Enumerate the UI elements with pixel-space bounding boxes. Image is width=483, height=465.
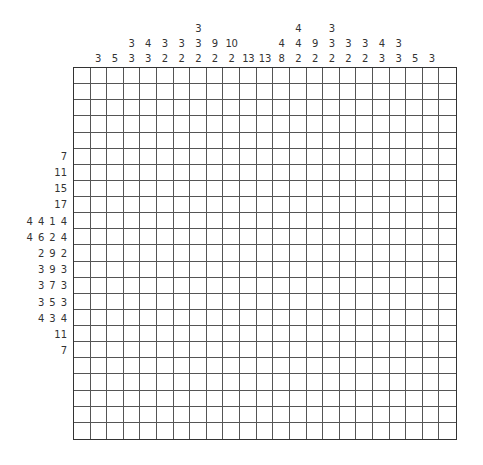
grid-cell-r17-c10[interactable]	[223, 326, 240, 342]
grid-cell-r16-c23[interactable]	[439, 310, 456, 326]
grid-cell-r3-c7[interactable]	[174, 100, 191, 116]
grid-cell-r23-c3[interactable]	[107, 423, 124, 439]
grid-cell-r1-c13[interactable]	[273, 68, 290, 84]
grid-cell-r21-c23[interactable]	[439, 391, 456, 407]
grid-cell-r4-c10[interactable]	[223, 116, 240, 132]
grid-cell-r12-c12[interactable]	[257, 245, 274, 261]
grid-cell-r6-c3[interactable]	[107, 149, 124, 165]
grid-cell-r22-c20[interactable]	[390, 407, 407, 423]
grid-cell-r15-c11[interactable]	[240, 294, 257, 310]
grid-cell-r20-c2[interactable]	[91, 374, 108, 390]
grid-cell-r14-c3[interactable]	[107, 278, 124, 294]
grid-cell-r9-c13[interactable]	[273, 197, 290, 213]
grid-cell-r11-c6[interactable]	[157, 229, 174, 245]
grid-cell-r17-c12[interactable]	[257, 326, 274, 342]
grid-cell-r11-c8[interactable]	[190, 229, 207, 245]
grid-cell-r4-c1[interactable]	[74, 116, 91, 132]
grid-cell-r18-c1[interactable]	[74, 342, 91, 358]
grid-cell-r10-c16[interactable]	[323, 213, 340, 229]
grid-cell-r21-c14[interactable]	[290, 391, 307, 407]
grid-cell-r20-c1[interactable]	[74, 374, 91, 390]
grid-cell-r18-c17[interactable]	[340, 342, 357, 358]
grid-cell-r19-c19[interactable]	[373, 358, 390, 374]
grid-cell-r2-c22[interactable]	[423, 84, 440, 100]
grid-cell-r17-c8[interactable]	[190, 326, 207, 342]
grid-cell-r12-c8[interactable]	[190, 245, 207, 261]
grid-cell-r8-c1[interactable]	[74, 181, 91, 197]
grid-cell-r17-c6[interactable]	[157, 326, 174, 342]
grid-cell-r8-c6[interactable]	[157, 181, 174, 197]
grid-cell-r8-c23[interactable]	[439, 181, 456, 197]
grid-cell-r16-c4[interactable]	[124, 310, 141, 326]
grid-cell-r2-c23[interactable]	[439, 84, 456, 100]
grid-cell-r1-c3[interactable]	[107, 68, 124, 84]
grid-cell-r7-c10[interactable]	[223, 165, 240, 181]
grid-cell-r17-c23[interactable]	[439, 326, 456, 342]
grid-cell-r13-c13[interactable]	[273, 262, 290, 278]
grid-cell-r21-c13[interactable]	[273, 391, 290, 407]
grid-cell-r8-c10[interactable]	[223, 181, 240, 197]
grid-cell-r3-c19[interactable]	[373, 100, 390, 116]
grid-cell-r7-c3[interactable]	[107, 165, 124, 181]
grid-cell-r10-c4[interactable]	[124, 213, 141, 229]
grid-cell-r15-c7[interactable]	[174, 294, 191, 310]
grid-cell-r11-c16[interactable]	[323, 229, 340, 245]
grid-cell-r5-c7[interactable]	[174, 133, 191, 149]
grid-cell-r22-c23[interactable]	[439, 407, 456, 423]
grid-cell-r7-c23[interactable]	[439, 165, 456, 181]
grid-cell-r19-c13[interactable]	[273, 358, 290, 374]
grid-cell-r20-c21[interactable]	[406, 374, 423, 390]
grid-cell-r20-c8[interactable]	[190, 374, 207, 390]
grid-cell-r20-c23[interactable]	[439, 374, 456, 390]
grid-cell-r4-c20[interactable]	[390, 116, 407, 132]
grid-cell-r16-c9[interactable]	[207, 310, 224, 326]
grid-cell-r7-c2[interactable]	[91, 165, 108, 181]
grid-cell-r16-c8[interactable]	[190, 310, 207, 326]
grid-cell-r1-c20[interactable]	[390, 68, 407, 84]
grid-cell-r13-c15[interactable]	[307, 262, 324, 278]
grid-cell-r3-c20[interactable]	[390, 100, 407, 116]
grid-cell-r13-c8[interactable]	[190, 262, 207, 278]
grid-cell-r1-c10[interactable]	[223, 68, 240, 84]
grid-cell-r14-c7[interactable]	[174, 278, 191, 294]
grid-cell-r15-c8[interactable]	[190, 294, 207, 310]
grid-cell-r17-c2[interactable]	[91, 326, 108, 342]
grid-cell-r11-c19[interactable]	[373, 229, 390, 245]
grid-cell-r16-c11[interactable]	[240, 310, 257, 326]
grid-cell-r20-c19[interactable]	[373, 374, 390, 390]
grid-cell-r5-c3[interactable]	[107, 133, 124, 149]
grid-cell-r15-c22[interactable]	[423, 294, 440, 310]
grid-cell-r6-c10[interactable]	[223, 149, 240, 165]
grid-cell-r22-c22[interactable]	[423, 407, 440, 423]
grid-cell-r13-c9[interactable]	[207, 262, 224, 278]
grid-cell-r11-c14[interactable]	[290, 229, 307, 245]
grid-cell-r12-c1[interactable]	[74, 245, 91, 261]
grid-cell-r19-c7[interactable]	[174, 358, 191, 374]
grid-cell-r10-c20[interactable]	[390, 213, 407, 229]
grid-cell-r19-c15[interactable]	[307, 358, 324, 374]
grid-cell-r3-c11[interactable]	[240, 100, 257, 116]
grid-cell-r2-c5[interactable]	[140, 84, 157, 100]
grid-cell-r7-c12[interactable]	[257, 165, 274, 181]
grid-cell-r6-c22[interactable]	[423, 149, 440, 165]
grid-cell-r1-c1[interactable]	[74, 68, 91, 84]
grid-cell-r3-c13[interactable]	[273, 100, 290, 116]
grid-cell-r2-c18[interactable]	[356, 84, 373, 100]
grid-cell-r6-c6[interactable]	[157, 149, 174, 165]
grid-cell-r17-c15[interactable]	[307, 326, 324, 342]
grid-cell-r18-c20[interactable]	[390, 342, 407, 358]
grid-cell-r6-c2[interactable]	[91, 149, 108, 165]
grid-cell-r11-c13[interactable]	[273, 229, 290, 245]
grid-cell-r5-c20[interactable]	[390, 133, 407, 149]
grid-cell-r20-c13[interactable]	[273, 374, 290, 390]
grid-cell-r22-c12[interactable]	[257, 407, 274, 423]
grid-cell-r2-c4[interactable]	[124, 84, 141, 100]
grid-cell-r6-c23[interactable]	[439, 149, 456, 165]
grid-cell-r23-c23[interactable]	[439, 423, 456, 439]
grid-cell-r18-c7[interactable]	[174, 342, 191, 358]
grid-cell-r4-c18[interactable]	[356, 116, 373, 132]
grid-cell-r19-c23[interactable]	[439, 358, 456, 374]
grid-cell-r21-c1[interactable]	[74, 391, 91, 407]
grid-cell-r14-c10[interactable]	[223, 278, 240, 294]
grid-cell-r1-c2[interactable]	[91, 68, 108, 84]
